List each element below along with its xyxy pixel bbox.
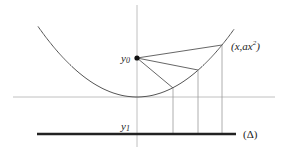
focus-segment-3 xyxy=(137,45,222,58)
vertical-drop-lines xyxy=(173,45,222,134)
directrix-label: (Δ) xyxy=(243,128,258,141)
curve-point-label-prefix: (x,ax xyxy=(231,40,253,53)
focus-label-subscript: 0 xyxy=(126,56,130,65)
focus-label: y0 xyxy=(120,52,130,65)
directrix-level-label: y1 xyxy=(120,120,130,133)
curve-point-label-suffix: ) xyxy=(255,40,260,53)
directrix-level-subscript: 1 xyxy=(126,124,130,133)
focus-point xyxy=(134,55,139,60)
focus-to-curve-segments xyxy=(137,45,222,88)
parabola-diagram: y0 y1 (x,ax2) (Δ) xyxy=(0,0,285,150)
focus-segment-1 xyxy=(137,58,173,88)
parabola-curve xyxy=(38,26,234,97)
curve-point-label: (x,ax2) xyxy=(231,39,260,53)
focus-segment-2 xyxy=(137,58,198,70)
